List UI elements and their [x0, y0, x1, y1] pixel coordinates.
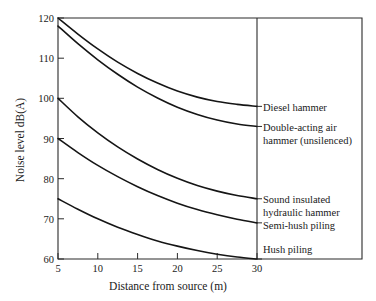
y-axis-title: Noise level dB(A) — [14, 98, 27, 182]
y-tick-label-100: 100 — [38, 93, 54, 104]
x-tick-label-5: 5 — [55, 263, 60, 274]
series-label-double-acting-air-hammer-line1: Double-acting air — [263, 122, 337, 133]
x-axis-tick-labels: 5 10 15 20 25 30 — [55, 263, 262, 274]
y-tick-label-90: 90 — [44, 134, 55, 145]
x-tick-label-30: 30 — [252, 263, 263, 274]
curve-series-4 — [58, 199, 257, 259]
series-labels-panel: Diesel hammer Double-acting air hammer (… — [263, 102, 352, 255]
y-tick-label-120: 120 — [38, 13, 54, 24]
x-axis-title: Distance from source (m) — [109, 280, 227, 293]
y-tick-label-60: 60 — [44, 254, 55, 265]
series-label-semi-hush-piling: Semi-hush piling — [263, 220, 336, 231]
noise-level-chart-figure: 120 110 100 90 80 70 60 5 10 15 20 25 30 — [0, 0, 376, 301]
series-leader-ticks — [257, 106, 262, 259]
y-tick-label-80: 80 — [44, 174, 55, 185]
y-tick-label-70: 70 — [44, 214, 55, 225]
series-label-diesel-hammer: Diesel hammer — [263, 102, 327, 113]
y-tick-label-110: 110 — [39, 53, 54, 64]
curve-series-3 — [58, 139, 257, 223]
series-label-sound-insulated-hydraulic-hammer-line2: hydraulic hammer — [263, 207, 340, 218]
x-tick-label-10: 10 — [93, 263, 104, 274]
curve-series-2 — [58, 98, 257, 198]
curve-series-0 — [58, 18, 257, 106]
series-label-sound-insulated-hydraulic-hammer-line1: Sound insulated — [263, 194, 331, 205]
chart-canvas: 120 110 100 90 80 70 60 5 10 15 20 25 30 — [0, 0, 376, 301]
x-tick-label-20: 20 — [172, 263, 183, 274]
x-tick-label-25: 25 — [212, 263, 223, 274]
series-label-hush-piling: Hush piling — [263, 244, 313, 255]
series-label-double-acting-air-hammer-line2: hammer (unsilenced) — [263, 135, 352, 147]
y-axis-tick-labels: 120 110 100 90 80 70 60 — [38, 13, 54, 265]
x-tick-label-15: 15 — [132, 263, 143, 274]
data-curves-group — [58, 18, 257, 259]
